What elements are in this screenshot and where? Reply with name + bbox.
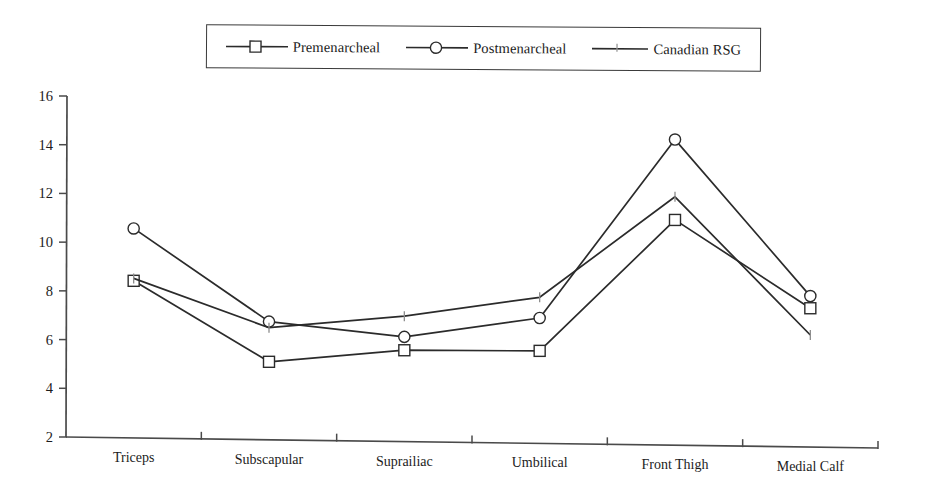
plot-area: 161412108642 TricepsSubscapularSuprailia…	[0, 0, 927, 489]
y-tick-label: 10	[39, 234, 54, 250]
data-point-circle	[805, 290, 816, 301]
x-category-label: Medial Calf	[777, 459, 845, 474]
data-point-square	[805, 303, 816, 314]
y-tick-label: 8	[46, 283, 53, 299]
y-tick-label: 6	[46, 332, 53, 348]
data-point-circle	[669, 134, 680, 145]
x-axis: TricepsSubscapularSuprailiacUmbilicalFro…	[66, 432, 878, 474]
data-point-square	[264, 356, 275, 367]
data-point-circle	[534, 312, 545, 323]
series-line	[134, 220, 811, 362]
y-tick-label: 14	[39, 137, 54, 153]
y-tick-label: 16	[39, 88, 54, 104]
series-layer	[128, 134, 816, 367]
data-point-circle	[128, 223, 139, 234]
series-premenarcheal	[128, 214, 816, 367]
series-canadian-rsg	[134, 192, 811, 340]
series-postmenarcheal	[128, 134, 816, 342]
series-line	[134, 197, 811, 335]
chart-container: Premenarcheal Postmenarcheal Canadian RS…	[0, 0, 927, 489]
data-point-circle	[399, 331, 410, 342]
x-category-label: Suprailiac	[376, 454, 433, 469]
y-axis-line	[66, 96, 67, 437]
data-point-square	[399, 345, 410, 356]
y-tick-label: 12	[39, 185, 54, 201]
y-tick-label: 4	[46, 380, 54, 396]
x-category-label: Umbilical	[512, 455, 568, 470]
data-point-square	[670, 214, 681, 225]
y-tick-label: 2	[46, 429, 53, 445]
y-axis: 161412108642	[39, 88, 68, 445]
data-point-square	[534, 345, 545, 356]
x-category-label: Front Thigh	[641, 457, 708, 472]
x-category-label: Subscapular	[235, 452, 304, 467]
x-category-label: Triceps	[113, 450, 155, 465]
